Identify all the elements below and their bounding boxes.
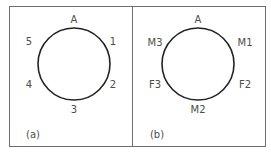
- caption-a: (a): [26, 130, 40, 140]
- label-b-m2: M2: [191, 105, 206, 115]
- circle-b: [162, 28, 234, 100]
- label-a-3: 3: [71, 105, 77, 115]
- label-b-f2: F2: [239, 80, 251, 90]
- label-a-top: A: [71, 15, 78, 25]
- circles-layer: [0, 0, 271, 154]
- label-b-m3: M3: [148, 38, 163, 48]
- label-a-5: 5: [26, 37, 32, 47]
- label-b-top: A: [195, 15, 202, 25]
- label-b-f3: F3: [149, 80, 161, 90]
- label-a-1: 1: [110, 37, 116, 47]
- label-a-4: 4: [26, 80, 32, 90]
- label-b-m1: M1: [238, 38, 253, 48]
- label-a-2: 2: [110, 80, 116, 90]
- caption-b: (b): [150, 130, 164, 140]
- circle-a: [38, 28, 110, 100]
